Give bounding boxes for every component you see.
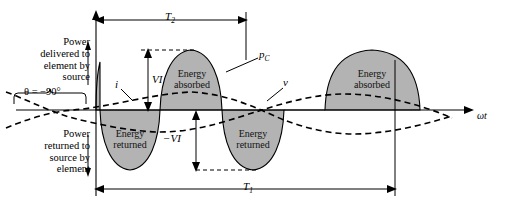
current-label-leader-line xyxy=(121,89,133,101)
power-curve-subscript: C xyxy=(265,54,270,63)
power-waveform-figure: Power delivered to element by source Pow… xyxy=(0,0,506,212)
voltage-curve-label: v xyxy=(283,76,288,88)
power-curve-label: pC xyxy=(259,48,270,64)
power-label-leader-line xyxy=(226,58,258,72)
current-curve-label: i xyxy=(115,78,118,90)
phase-angle-label: θ = −90° xyxy=(24,86,61,98)
amplitude-negative-label: −VI xyxy=(163,132,181,144)
power-delivered-label: Power delivered to element by source xyxy=(18,36,90,83)
figure-canvas xyxy=(0,0,506,212)
omega-t-axis-arrowhead xyxy=(464,106,474,114)
energy-absorbed-lobe-partial xyxy=(96,62,100,110)
power-returned-label: Power returned to source by element xyxy=(18,128,90,175)
period-t2-subscript: 2 xyxy=(171,16,175,25)
energy-absorbed-region-label-2: Energy absorbed xyxy=(341,68,403,90)
energy-returned-region-label-1: Energy returned xyxy=(100,128,160,150)
period-t2-label: T2 xyxy=(165,10,175,26)
voltage-label-leader-line xyxy=(267,88,283,101)
negative-vi-dimension-arrowhead-top xyxy=(192,110,200,120)
omega-t-axis-label: ωt xyxy=(477,110,487,121)
energy-absorbed-region-label-1: Energy absorbed xyxy=(161,68,223,90)
period-t1-label: T1 xyxy=(243,180,253,196)
period-t1-subscript: 1 xyxy=(249,186,253,195)
energy-returned-region-label-2: Energy returned xyxy=(223,128,283,150)
